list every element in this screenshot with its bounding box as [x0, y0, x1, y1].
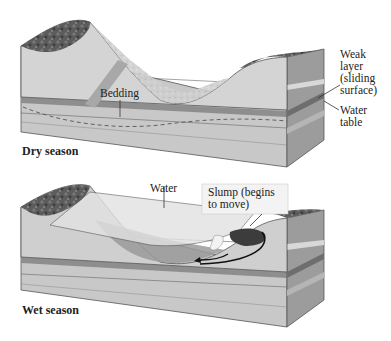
water-table-label-2: table	[340, 116, 362, 128]
weak-layer-label-4: surface)	[340, 84, 377, 97]
water-table-label-1: Water	[340, 104, 367, 116]
landslide-diagram: Bedding Weak layer (sliding surface) Wat…	[0, 0, 391, 341]
wet-season-caption: Wet season	[22, 303, 79, 317]
weak-layer-label-1: Weak	[340, 48, 366, 60]
diagram-canvas: Bedding Weak layer (sliding surface) Wat…	[0, 0, 391, 341]
dry-side-face	[287, 49, 324, 167]
bedding-label: Bedding	[100, 87, 139, 100]
water-label: Water	[150, 182, 177, 194]
wet-season-block: Water Slump (begins to move) Wet season	[21, 182, 324, 327]
slump-label-2: to move)	[208, 198, 249, 211]
dry-season-block: Bedding Weak layer (sliding surface) Wat…	[21, 20, 377, 167]
dry-season-caption: Dry season	[22, 144, 79, 158]
